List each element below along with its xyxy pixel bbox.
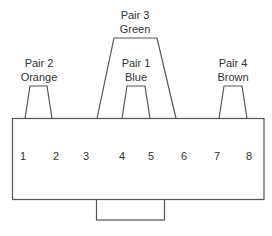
pair-2-color: Orange [21,71,58,83]
pair-1-color: Blue [125,71,147,83]
connector-body [13,119,265,200]
pin-8-label: 8 [246,150,252,162]
pair-2-bracket [25,86,52,119]
rj45-pinout-diagram: Pair 2 Orange Pair 3 Green Pair 1 Blue P… [0,0,272,236]
pin-5-label: 5 [148,150,154,162]
pin-2-label: 2 [53,150,59,162]
pair-4-bracket [219,86,247,119]
pair-2-label: Pair 2 [25,57,54,69]
pair-3-color: Green [120,23,151,35]
pin-3-label: 3 [83,150,89,162]
connector-latch-tab [97,199,165,220]
pair-1-bracket [122,86,150,119]
pin-4-label: 4 [119,150,125,162]
pair-4-color: Brown [217,71,248,83]
pin-7-label: 7 [214,150,220,162]
pair-1-label: Pair 1 [122,57,151,69]
pin-6-label: 6 [181,150,187,162]
pair-4-label: Pair 4 [219,57,248,69]
pin-1-label: 1 [20,150,26,162]
pair-3-label: Pair 3 [121,9,150,21]
